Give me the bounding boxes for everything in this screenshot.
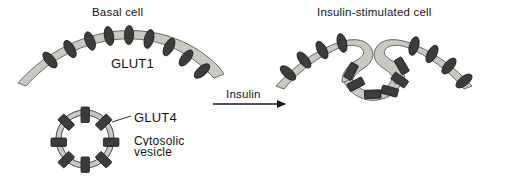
glut4-transporter	[81, 107, 89, 123]
glut4-transporter	[51, 138, 66, 146]
glut1-transporter	[103, 26, 115, 47]
glut-transporter	[364, 90, 381, 99]
glut-transporter	[335, 33, 349, 54]
basal-cell-title: Basal cell	[92, 6, 143, 18]
glut4-leader-line	[112, 116, 131, 122]
stimulated-cell-transporters	[278, 33, 475, 99]
glut1-label: GLUT1	[111, 56, 154, 71]
insulin-stimulated-cell-title: Insulin-stimulated cell	[317, 6, 432, 18]
cytosolic-vesicle-caption-line2: vesicle	[134, 146, 184, 159]
glut-transporter	[407, 36, 421, 57]
insulin-arrow-label: Insulin	[226, 88, 261, 100]
glut4-transporters	[51, 107, 119, 172]
glut4-transporter	[81, 157, 89, 173]
figure-canvas: Basal cell Insulin-stimulated cell GLUT1…	[0, 0, 511, 186]
glut1-transporter	[124, 25, 134, 45]
glut4-label: GLUT4	[134, 110, 177, 125]
glut4-transporter	[103, 138, 119, 146]
cytosolic-vesicle-caption: Cytosolic vesicle	[134, 135, 184, 159]
